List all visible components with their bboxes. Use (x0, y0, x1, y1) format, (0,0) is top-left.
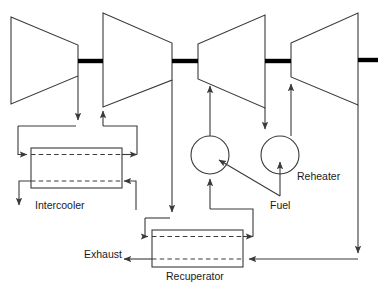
label-reheater: Reheater (297, 171, 340, 182)
pipe-coolant-outlet-down (19, 181, 31, 205)
intercooler-unit (31, 148, 122, 188)
pipe-recup-cold-inlet (145, 218, 148, 237)
pipe-recup-to-combustor-run (210, 209, 253, 237)
recuperator-box (152, 230, 243, 267)
label-intercooler: Intercooler (35, 200, 85, 211)
label-recuperator: Recuperator (166, 271, 224, 282)
compressor-1 (11, 17, 78, 104)
shaft-group (78, 60, 378, 61)
pipe-intercooler-to-c2 (103, 126, 137, 155)
recuperator-unit (152, 230, 243, 267)
gas-turbine-cycle-diagram: Intercooler Exhaust Recuperator Fuel Reh… (0, 0, 380, 300)
flow-schematic (0, 0, 380, 300)
pipe-intercooler-hot-inlet (18, 126, 27, 155)
pipe-fuel-to-combustor (219, 160, 280, 196)
label-exhaust: Exhaust (84, 249, 122, 260)
turbine-1 (198, 15, 265, 108)
pipe-coolant-inlet (124, 181, 136, 210)
compressor-2 (103, 13, 172, 107)
turbine-2 (291, 13, 358, 105)
combustor (191, 136, 229, 174)
label-fuel: Fuel (270, 200, 290, 211)
